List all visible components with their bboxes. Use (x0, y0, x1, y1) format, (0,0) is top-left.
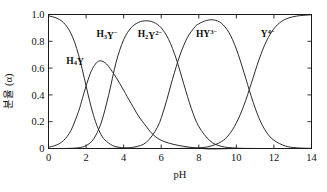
species-distribution-figure: 분율 (α) 0246810121400.20.40.60.81.0 H4YH3… (0, 0, 327, 192)
y-tick-label-0.4: 0.4 (31, 90, 45, 101)
y-axis-title: 분율 (α) (0, 73, 15, 108)
curves-group (49, 15, 312, 149)
curve-H4Y (49, 16, 312, 149)
x-tick-label-8: 8 (196, 152, 201, 163)
x-tick-label-0: 0 (46, 152, 51, 163)
species-label-HY3-: HY3− (196, 28, 218, 39)
y-axis-title-wrapper: 분율 (α) (0, 52, 15, 130)
y-tick-label-0.8: 0.8 (31, 36, 44, 47)
curve-H3Y- (49, 61, 312, 149)
x-tick-label-14: 14 (306, 152, 317, 163)
y-tick-label-0.2: 0.2 (31, 116, 44, 127)
species-label-H3Y-: H3Y− (96, 29, 118, 41)
x-tick-label-12: 12 (269, 152, 280, 163)
species-label-H4Y: H4Y (66, 56, 84, 68)
x-axis-title: pH (174, 169, 187, 180)
x-axis-title-group: pH (174, 169, 187, 180)
y-tick-label-0: 0 (39, 143, 44, 154)
y-tick-label-1.0: 1.0 (31, 9, 44, 20)
y-tick-label-0.6: 0.6 (31, 63, 44, 74)
curve-HY3- (49, 20, 312, 149)
species-label-Y4-: Y4− (261, 28, 275, 39)
x-tick-label-6: 6 (159, 152, 164, 163)
chart-plot-area: 0246810121400.20.40.60.81.0 H4YH3Y−H2Y2−… (0, 0, 327, 192)
species-label-H2Y2-: H2Y2− (138, 29, 163, 41)
x-tick-label-4: 4 (121, 152, 127, 163)
x-tick-label-10: 10 (231, 152, 242, 163)
curve-H2Y2- (49, 21, 312, 149)
x-tick-label-2: 2 (83, 152, 88, 163)
